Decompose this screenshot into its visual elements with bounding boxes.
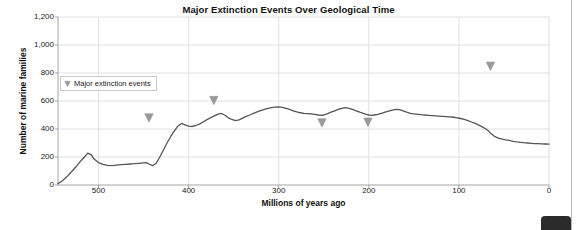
page-corner-artifact bbox=[541, 216, 571, 230]
page-edge-strip bbox=[571, 0, 577, 230]
gridlines bbox=[58, 17, 549, 185]
axis-lines bbox=[55, 17, 549, 188]
diversity-curve bbox=[58, 107, 549, 184]
extinction-event-markers bbox=[145, 62, 495, 127]
plot-area bbox=[0, 0, 577, 230]
legend: Major extinction events bbox=[60, 76, 157, 91]
chart-figure: Major Extinction Events Over Geological … bbox=[0, 0, 577, 230]
legend-label: Major extinction events bbox=[74, 79, 151, 88]
triangle-down-icon bbox=[64, 80, 71, 88]
